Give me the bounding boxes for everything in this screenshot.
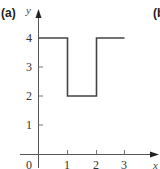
y-axis-arrow-icon bbox=[36, 9, 42, 18]
y-tick-label-1: 1 bbox=[26, 118, 32, 133]
chart-canvas bbox=[0, 0, 160, 169]
x-axis-arrow-icon bbox=[150, 152, 159, 158]
y-tick-label-3: 3 bbox=[26, 60, 32, 75]
x-tick-label-3: 3 bbox=[121, 158, 127, 169]
y-tick-label-2: 2 bbox=[26, 89, 32, 104]
x-tick-label-2: 2 bbox=[93, 158, 99, 169]
step-function-line bbox=[39, 38, 125, 96]
y-tick-label-4: 4 bbox=[26, 31, 32, 46]
x-axis-label: x bbox=[153, 159, 158, 169]
x-tick-label-1: 1 bbox=[64, 158, 70, 169]
origin-label: 0 bbox=[26, 158, 32, 169]
y-axis-label: y bbox=[26, 4, 31, 16]
